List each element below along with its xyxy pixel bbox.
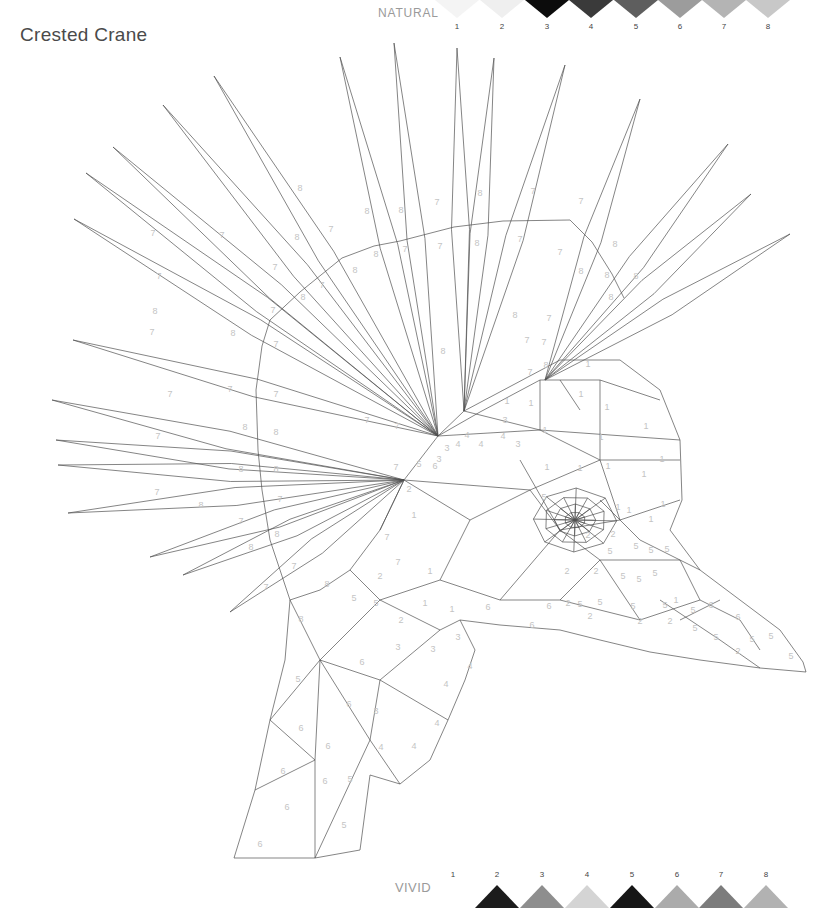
region-color-number: 4 xyxy=(467,661,472,671)
region-color-number: 7 xyxy=(150,228,155,238)
region-color-number: 7 xyxy=(270,305,275,315)
crested-crane-line-drawing: 8887877778778778778787878887878878777778… xyxy=(0,0,833,908)
region-color-number: 7 xyxy=(154,487,159,497)
crest-arc xyxy=(262,220,624,346)
region-color-number: 8 xyxy=(608,292,613,302)
mesh-edge xyxy=(404,480,530,490)
region-color-number: 1 xyxy=(528,398,533,408)
mesh-edge xyxy=(320,600,380,660)
mesh-edge xyxy=(370,740,400,784)
region-color-number: 7 xyxy=(395,557,400,567)
region-color-number: 1 xyxy=(659,454,664,464)
region-color-number: 2 xyxy=(398,615,403,625)
mesh-edge xyxy=(320,660,370,740)
region-color-number: 1 xyxy=(604,402,609,412)
mesh-edge xyxy=(380,630,440,680)
region-color-number: 5 xyxy=(788,651,793,661)
crest-feather xyxy=(464,58,494,411)
region-color-number: 5 xyxy=(630,601,635,611)
region-color-number: 1 xyxy=(605,461,610,471)
region-color-number: 2 xyxy=(406,484,411,494)
region-color-number: 7 xyxy=(541,337,546,347)
region-color-number: 5 xyxy=(341,820,346,830)
region-color-number: 4 xyxy=(443,679,448,689)
region-color-number: 4 xyxy=(378,742,383,752)
region-color-number: 1 xyxy=(578,389,583,399)
crest-feather xyxy=(545,194,751,380)
region-color-number: 8 xyxy=(474,238,479,248)
region-color-number: 7 xyxy=(291,561,296,571)
region-color-number: 5 xyxy=(636,574,641,584)
region-color-number: 7 xyxy=(167,389,172,399)
region-color-number: 4 xyxy=(500,431,505,441)
region-color-number: 1 xyxy=(449,604,454,614)
region-color-number: 8 xyxy=(298,614,303,624)
region-color-number: 1 xyxy=(542,425,547,435)
region-color-number: 1 xyxy=(643,421,648,431)
eye-spoke xyxy=(533,519,575,520)
region-color-number: 7 xyxy=(437,241,442,251)
head-outline xyxy=(234,360,806,858)
region-color-number: 2 xyxy=(585,530,590,540)
natural-swatch-2 xyxy=(480,0,524,18)
region-color-number: 5 xyxy=(690,605,695,615)
region-color-number: 7 xyxy=(273,339,278,349)
region-color-number: 2 xyxy=(667,616,672,626)
region-color-number: 2 xyxy=(610,529,615,539)
region-color-number: 6 xyxy=(298,723,303,733)
region-color-number: 7 xyxy=(328,224,333,234)
region-color-number: 7 xyxy=(155,431,160,441)
region-color-number: 8 xyxy=(300,292,305,302)
region-color-number: 3 xyxy=(395,642,400,652)
region-color-number: 7 xyxy=(156,271,161,281)
region-color-number: 7 xyxy=(272,262,277,272)
crest-feather xyxy=(58,464,404,482)
mesh-edge xyxy=(270,720,315,760)
region-color-number: 7 xyxy=(578,196,583,206)
crest-feather xyxy=(150,480,404,557)
region-color-number: 6 xyxy=(529,620,534,630)
region-color-number: 8 xyxy=(440,346,445,356)
region-color-number: 7 xyxy=(530,186,535,196)
crest-feather xyxy=(163,105,438,436)
region-color-number: 6 xyxy=(257,839,262,849)
region-color-number: 1 xyxy=(626,505,631,515)
region-color-number: 6 xyxy=(325,741,330,751)
mesh-edge xyxy=(290,600,320,660)
crest-feather xyxy=(545,99,640,380)
region-color-number: 5 xyxy=(692,623,697,633)
region-color-number: 6 xyxy=(284,802,289,812)
region-color-number: 3 xyxy=(430,644,435,654)
region-color-number: 5 xyxy=(749,634,754,644)
crest-feather xyxy=(545,144,728,380)
region-color-number: 8 xyxy=(373,249,378,259)
region-color-number: 3 xyxy=(444,443,449,453)
region-color-number: 7 xyxy=(263,582,268,592)
mesh-edge xyxy=(315,660,320,760)
region-color-number: 5 xyxy=(607,546,612,556)
region-color-number: 8 xyxy=(543,360,548,370)
mesh-edge xyxy=(315,740,370,858)
head-and-beak xyxy=(234,360,806,858)
region-color-number: 1 xyxy=(615,502,620,512)
region-color-number: 4 xyxy=(464,430,469,440)
region-color-number: 2 xyxy=(587,611,592,621)
region-color-number: 5 xyxy=(633,541,638,551)
natural-swatch-7 xyxy=(702,0,746,18)
region-color-number: 1 xyxy=(422,598,427,608)
region-color-number: 1 xyxy=(660,499,665,509)
region-color-number: 8 xyxy=(364,206,369,216)
region-color-number: 7 xyxy=(364,415,369,425)
region-color-number: 6 xyxy=(359,657,364,667)
region-color-number: 8 xyxy=(198,500,203,510)
region-color-number: 8 xyxy=(512,310,517,320)
region-color-number: 1 xyxy=(544,462,549,472)
region-color-number: 8 xyxy=(238,464,243,474)
region-color-number: 5 xyxy=(620,571,625,581)
region-color-number: 2 xyxy=(564,566,569,576)
region-color-number: 4 xyxy=(434,718,439,728)
region-color-number: 8 xyxy=(604,270,609,280)
mesh-edge xyxy=(440,580,500,600)
mesh-edge xyxy=(380,600,440,630)
region-color-number: 7 xyxy=(384,532,389,542)
